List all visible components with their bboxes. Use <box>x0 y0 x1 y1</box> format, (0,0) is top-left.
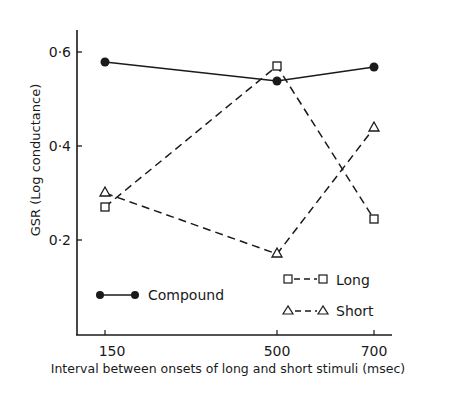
legend-compound: Compound <box>96 287 224 303</box>
legend-label: Long <box>336 272 370 288</box>
y-tick-label: 0·2 <box>49 232 71 248</box>
y-axis-label: GSR (Log conductance) <box>28 84 43 236</box>
legend-label: Compound <box>148 287 224 303</box>
legend-short: Short <box>283 303 374 319</box>
legend-label: Short <box>336 303 374 319</box>
x-tick-label: 700 <box>361 343 388 359</box>
y-tick-label: 0·6 <box>49 44 71 60</box>
y-tick-label: 0·4 <box>49 138 71 154</box>
series-long <box>101 62 378 223</box>
x-tick-label: 150 <box>99 343 126 359</box>
x-axis: 150 500 700 Interval between onsets of l… <box>51 330 406 376</box>
y-axis: 0·6 0·4 0·2 GSR (Log conductance) <box>28 30 82 335</box>
x-axis-label: Interval between onsets of long and shor… <box>51 361 406 376</box>
x-tick-label: 500 <box>264 343 291 359</box>
series-compound <box>101 58 379 86</box>
chart: 0·6 0·4 0·2 GSR (Log conductance) 150 50… <box>0 0 454 398</box>
legend-long: Long <box>284 272 370 288</box>
series-short <box>100 122 379 257</box>
